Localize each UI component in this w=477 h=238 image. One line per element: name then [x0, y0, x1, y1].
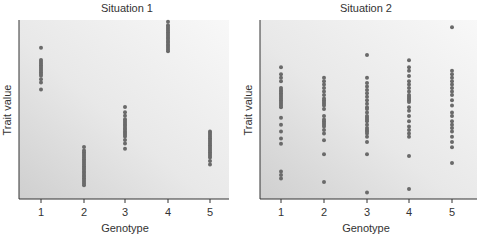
chart-title-1: Situation 1 — [101, 2, 153, 14]
data-point — [166, 20, 170, 24]
data-point — [365, 191, 369, 195]
data-point — [365, 81, 369, 85]
data-point — [365, 111, 369, 115]
data-point — [407, 119, 411, 123]
data-point — [279, 170, 283, 174]
data-point — [82, 145, 86, 149]
x-ticks-1: 12345 — [38, 199, 213, 218]
data-point — [407, 114, 411, 118]
data-point — [450, 111, 454, 115]
data-point — [450, 72, 454, 76]
data-point — [365, 107, 369, 111]
x-tick-label: 3 — [122, 206, 128, 218]
data-point — [450, 161, 454, 165]
data-point — [407, 65, 411, 69]
x-axis-label-1: Genotype — [101, 222, 149, 234]
data-point — [123, 135, 127, 139]
data-point — [322, 180, 326, 184]
data-point — [407, 90, 411, 94]
data-point — [279, 142, 283, 146]
data-point — [365, 102, 369, 106]
data-point — [322, 152, 326, 156]
data-point — [322, 76, 326, 80]
figure: Situation 1 Trait value Genotype 12345 S… — [0, 0, 477, 238]
data-point — [279, 130, 283, 134]
data-point — [39, 88, 43, 92]
data-point — [39, 74, 43, 78]
data-point — [450, 93, 454, 97]
data-point — [123, 105, 127, 109]
panel-situation-2: Situation 2 Trait value Genotype 12345 — [242, 2, 477, 234]
data-point — [407, 58, 411, 62]
data-point — [365, 140, 369, 144]
data-point — [450, 126, 454, 130]
data-point — [123, 147, 127, 151]
data-point — [322, 131, 326, 135]
data-point — [322, 138, 326, 142]
data-point — [322, 90, 326, 94]
data-point — [279, 173, 283, 177]
data-point — [365, 76, 369, 80]
data-point — [450, 86, 454, 90]
data-point — [407, 154, 411, 158]
data-point — [279, 123, 283, 127]
plot-area-1 — [19, 20, 229, 199]
x-tick-label: 5 — [449, 206, 455, 218]
data-point — [407, 100, 411, 104]
data-point — [450, 25, 454, 29]
data-point — [450, 83, 454, 87]
data-point — [365, 53, 369, 57]
data-point — [39, 46, 43, 50]
data-point — [279, 72, 283, 76]
data-point — [279, 116, 283, 120]
data-point — [407, 124, 411, 128]
data-point — [407, 135, 411, 139]
data-point — [407, 131, 411, 135]
data-point — [39, 81, 43, 85]
data-point — [450, 135, 454, 139]
data-point — [407, 74, 411, 78]
data-point — [322, 128, 326, 132]
data-point — [365, 123, 369, 127]
data-point — [407, 187, 411, 191]
data-point — [450, 69, 454, 73]
data-point — [365, 98, 369, 102]
data-point — [450, 90, 454, 94]
x-ticks-2: 12345 — [278, 199, 455, 218]
data-point — [322, 104, 326, 108]
y-axis-label-1: Trait value — [1, 85, 13, 136]
data-point — [450, 98, 454, 102]
x-tick-label: 4 — [165, 206, 171, 218]
data-point — [279, 76, 283, 80]
data-point — [208, 162, 212, 166]
data-point — [365, 119, 369, 123]
data-point — [450, 140, 454, 144]
data-point — [279, 105, 283, 109]
data-point — [123, 110, 127, 114]
data-point — [450, 130, 454, 134]
data-point — [450, 114, 454, 118]
data-point — [407, 83, 411, 87]
x-tick-label: 1 — [38, 206, 44, 218]
data-point — [407, 128, 411, 132]
data-point — [365, 84, 369, 88]
data-point — [208, 159, 212, 163]
data-point — [322, 86, 326, 90]
data-point — [407, 69, 411, 73]
data-point — [365, 131, 369, 135]
x-tick-label: 3 — [364, 206, 370, 218]
x-axis-label-2: Genotype — [342, 222, 390, 234]
data-point — [82, 183, 86, 187]
chart-title-2: Situation 2 — [340, 2, 392, 14]
y-axis-label-2: Trait value — [242, 85, 254, 136]
data-point — [123, 114, 127, 118]
data-point — [166, 49, 170, 53]
data-point — [450, 123, 454, 127]
data-point — [407, 86, 411, 90]
data-point — [322, 124, 326, 128]
data-point — [279, 65, 283, 69]
data-point — [279, 137, 283, 141]
x-tick-label: 4 — [406, 206, 412, 218]
x-tick-label: 2 — [81, 206, 87, 218]
data-point — [322, 93, 326, 97]
